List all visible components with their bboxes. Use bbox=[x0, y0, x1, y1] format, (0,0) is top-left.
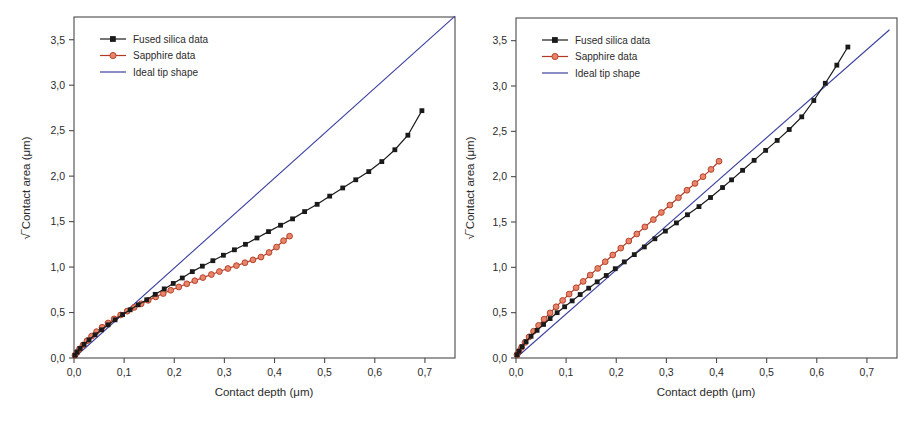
sapphire-marker bbox=[650, 217, 656, 223]
x-tick-label: 0,5 bbox=[759, 366, 774, 378]
fused-silica-marker bbox=[555, 310, 560, 315]
sapphire-marker bbox=[160, 291, 166, 297]
sapphire-marker bbox=[587, 272, 593, 278]
fused-silica-marker bbox=[232, 247, 237, 252]
fused-silica-marker bbox=[685, 212, 690, 217]
sapphire-marker bbox=[176, 284, 182, 290]
fused-silica-marker bbox=[379, 159, 384, 164]
fused-silica-marker bbox=[106, 322, 111, 327]
fused-silica-marker bbox=[697, 204, 702, 209]
legend-label: Ideal tip shape bbox=[133, 67, 198, 78]
fused-silica-marker bbox=[811, 98, 816, 103]
fused-silica-marker bbox=[315, 202, 320, 207]
sapphire-marker bbox=[610, 252, 616, 258]
fused-silica-marker bbox=[190, 269, 195, 274]
panel-right: 0,00,10,20,30,40,50,60,7 0,00,51,01,52,0… bbox=[461, 0, 922, 423]
axes-frame bbox=[516, 18, 897, 358]
fused-silica-marker bbox=[524, 339, 529, 344]
legend-label: Fused silica data bbox=[133, 34, 208, 45]
y-tick-label: 0,0 bbox=[492, 352, 507, 364]
x-tick-label: 0,1 bbox=[117, 366, 132, 378]
fused-silica-marker bbox=[290, 216, 295, 221]
fused-silica-marker bbox=[136, 302, 141, 307]
y-tick-label: 3,5 bbox=[50, 34, 65, 46]
plot-left[interactable]: 0,00,10,20,30,40,50,60,7 0,00,51,01,52,0… bbox=[0, 0, 461, 423]
y-tick-label: 0,5 bbox=[50, 306, 65, 318]
sapphire-marker bbox=[595, 266, 601, 272]
fused-silica-marker bbox=[255, 236, 260, 241]
fused-silica-marker bbox=[120, 312, 125, 317]
sapphire-marker bbox=[258, 254, 264, 260]
fused-silica-marker bbox=[740, 168, 745, 173]
fused-silica-marker bbox=[548, 316, 553, 321]
fused-silica-marker bbox=[642, 245, 647, 250]
fused-silica-marker bbox=[113, 317, 118, 322]
fused-silica-marker bbox=[823, 81, 828, 86]
fused-silica-marker bbox=[87, 337, 92, 342]
fused-silica-marker bbox=[604, 273, 609, 278]
fused-silica-marker bbox=[674, 221, 679, 226]
legend-label: Ideal tip shape bbox=[575, 68, 640, 79]
x-tick-label: 0,6 bbox=[809, 366, 824, 378]
y-tick-label: 2,5 bbox=[50, 124, 65, 136]
fused-silica-marker bbox=[171, 281, 176, 286]
sapphire-marker bbox=[684, 187, 690, 193]
x-tick-label: 0,4 bbox=[267, 366, 282, 378]
y-tick-label: 1,0 bbox=[492, 261, 507, 273]
plot-right[interactable]: 0,00,10,20,30,40,50,60,7 0,00,51,01,52,0… bbox=[461, 0, 922, 423]
sapphire-marker bbox=[184, 281, 190, 287]
sapphire-marker bbox=[266, 250, 272, 256]
fused-silica-marker bbox=[93, 332, 98, 337]
fused-silica-marker bbox=[613, 266, 618, 271]
y-tick-label: 2,0 bbox=[492, 170, 507, 182]
x-tick-label: 0,2 bbox=[609, 366, 624, 378]
fused-silica-marker bbox=[570, 298, 575, 303]
sapphire-marker bbox=[168, 287, 174, 293]
x-axis-title: Contact depth (μm) bbox=[657, 386, 756, 398]
fused-silica-marker bbox=[78, 346, 83, 351]
x-tick-label: 0,3 bbox=[659, 366, 674, 378]
fused-silica-marker bbox=[529, 334, 534, 339]
fused-silica-marker bbox=[153, 292, 158, 297]
fused-silica-marker bbox=[586, 286, 591, 291]
y-tick-label: 1,5 bbox=[492, 216, 507, 228]
sapphire-marker bbox=[553, 304, 559, 310]
fused-silica-marker bbox=[535, 328, 540, 333]
fused-silica-marker bbox=[708, 195, 713, 200]
legend-circle-marker-icon bbox=[110, 52, 116, 58]
fused-silica-marker bbox=[144, 297, 149, 302]
fused-silica-marker bbox=[541, 322, 546, 327]
x-tick-label: 0,1 bbox=[559, 366, 574, 378]
legend-label: Sapphire data bbox=[133, 50, 196, 61]
y-axis-title: √‾Contact area (μm) bbox=[464, 136, 476, 239]
fused-silica-marker bbox=[517, 349, 522, 354]
sapphire-marker bbox=[642, 224, 648, 230]
sapphire-marker bbox=[566, 291, 572, 297]
sapphire-marker bbox=[541, 316, 547, 322]
fused-silica-marker bbox=[366, 169, 371, 174]
sapphire-marker bbox=[667, 202, 673, 208]
legend-circle-marker-icon bbox=[552, 53, 558, 59]
y-tick-label: 1,0 bbox=[50, 261, 65, 273]
fused-silica-marker bbox=[243, 242, 248, 247]
fused-silica-marker bbox=[562, 304, 567, 309]
plot-frame-right bbox=[516, 18, 897, 358]
fused-silica-marker bbox=[392, 147, 397, 152]
y-tick-label: 3,0 bbox=[492, 80, 507, 92]
sapphire-marker bbox=[234, 263, 240, 269]
fused-silica-marker bbox=[763, 148, 768, 153]
fused-silica-marker bbox=[266, 229, 271, 234]
fused-silica-marker bbox=[82, 342, 87, 347]
y-tick-label: 2,0 bbox=[50, 170, 65, 182]
fused-silica-marker bbox=[595, 279, 600, 284]
x-tick-label: 0,0 bbox=[67, 366, 82, 378]
sapphire-marker bbox=[547, 310, 553, 316]
fused-silica-marker bbox=[752, 158, 757, 163]
y-axis-title: √‾Contact area (μm) bbox=[20, 136, 32, 239]
fused-silica-marker bbox=[128, 307, 133, 312]
sapphire-marker bbox=[602, 259, 608, 265]
fused-silica-marker bbox=[340, 186, 345, 191]
sapphire-marker bbox=[708, 167, 714, 173]
fused-silica-marker bbox=[405, 133, 410, 138]
panel-left: 0,00,10,20,30,40,50,60,7 0,00,51,01,52,0… bbox=[0, 0, 461, 423]
